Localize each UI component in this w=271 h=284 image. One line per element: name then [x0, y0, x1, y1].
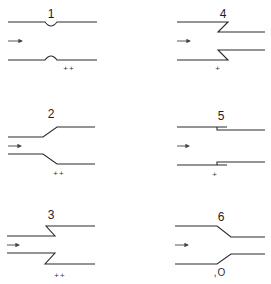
panel-1-bottom-wall	[8, 56, 97, 60]
panel-3-label: 3	[48, 208, 55, 222]
panel-6-rating: ,O	[214, 267, 227, 278]
panel-6-top-wall	[175, 226, 265, 237]
panel-3-top-wall	[7, 226, 95, 236]
panel-5-top-wall	[177, 127, 265, 130]
panel-6-bottom-wall	[175, 254, 265, 264]
panel-5: 5 +	[177, 109, 265, 179]
panel-4-rating: +	[215, 64, 221, 73]
panel-4-top-wall	[177, 22, 265, 32]
panel-3: 3 ++	[7, 208, 95, 280]
panel-4: 4 +	[177, 7, 265, 73]
panel-3-bottom-wall	[7, 253, 95, 264]
panel-3-rating: ++	[54, 271, 65, 280]
panel-4-label: 4	[220, 7, 227, 21]
panel-2-top-wall	[8, 127, 95, 137]
panel-6: 6 ,O	[175, 210, 265, 278]
panel-1-top-wall	[8, 22, 97, 26]
panel-6-label: 6	[218, 210, 225, 224]
panel-2-rating: ++	[53, 169, 64, 178]
panel-5-label: 5	[218, 109, 225, 123]
panel-4-bottom-wall	[177, 50, 265, 60]
diagram-canvas: 1 ++ 4 + 2 ++ 5 + 3 ++ 6	[0, 0, 271, 284]
panel-5-rating: +	[212, 170, 218, 179]
panel-1-rating: ++	[63, 64, 74, 73]
panel-1-label: 1	[48, 7, 55, 21]
panel-2: 2 ++	[8, 107, 95, 178]
panel-2-label: 2	[48, 107, 55, 121]
panel-5-bottom-wall	[177, 162, 265, 165]
panel-1: 1 ++	[8, 7, 97, 73]
panel-2-bottom-wall	[8, 154, 95, 164]
